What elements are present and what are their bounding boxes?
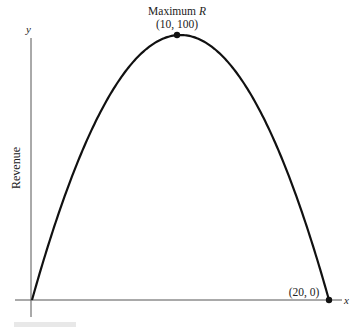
maximum-coords: (10, 100) <box>156 18 198 31</box>
maximum-point <box>174 32 180 38</box>
revenue-axis-title: Revenue <box>9 147 23 189</box>
maximum-label: Maximum R <box>148 5 206 17</box>
figure-caption-fragment <box>14 322 76 327</box>
x-axis-label: x <box>343 294 349 306</box>
end-point <box>326 297 332 303</box>
y-axis-label: y <box>25 23 31 35</box>
end-point-coords: (20, 0) <box>289 286 320 299</box>
revenue-chart: y x Revenue Maximum R (10, 100) (20, 0) <box>0 0 362 327</box>
revenue-curve <box>32 35 329 300</box>
